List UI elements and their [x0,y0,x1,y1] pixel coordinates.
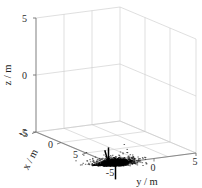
z-tick-label-mid: 0 [22,70,27,81]
z-axis-label: z / m [2,65,13,86]
plot-canvas: 5 0 -5 -5 0 5 -5 0 5 z / m x / m y / m [0,0,202,188]
y-tick-label-5: 5 [193,156,198,167]
x-tick-label-neg5: -5 [20,128,28,139]
grid-back-left-wall [36,7,120,132]
grid-back-right-wall [120,7,196,153]
y-tick-label-0: 0 [151,162,156,173]
x-tick-label-5: 5 [73,149,78,160]
figure-3d-scatter: 5 0 -5 -5 0 5 -5 0 5 z / m x / m y / m [0,0,202,188]
z-tick-label-top: 5 [22,13,27,24]
x-axis-label: x / m [20,147,40,171]
axis-spines [36,18,196,164]
x-tick-label-0: 0 [48,139,53,150]
tick-marks [32,18,196,167]
y-tick-label-neg5: -5 [106,167,114,178]
y-axis-label: y / m [136,176,158,187]
